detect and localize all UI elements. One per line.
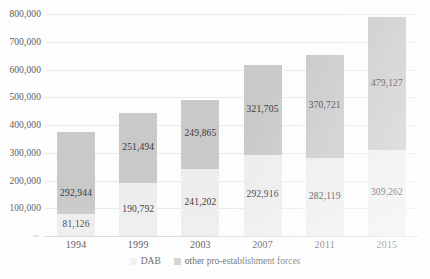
y-axis: 100,000200,000300,000400,000500,000600,0… [0,14,41,236]
gridline [45,14,418,15]
y-axis-tick-label: 200,000 [0,176,41,186]
gridline [45,42,418,43]
bar-segment[interactable]: 292,944 [57,132,95,213]
bar-segment[interactable]: 321,705 [244,65,282,154]
chart-legend: DABother pro-establishment forces [0,256,430,266]
gridline [45,236,418,237]
bar-segment[interactable]: 241,202 [181,169,219,236]
gridline [45,97,418,98]
legend-item[interactable]: DAB [130,256,161,266]
y-axis-zero-tick [33,236,39,237]
bar-segment[interactable]: 309,262 [368,150,406,236]
bar-segment[interactable]: 249,865 [181,100,219,169]
data-label: 321,705 [230,104,296,114]
stacked-bar-chart: 100,000200,000300,000400,000500,000600,0… [0,0,430,279]
bar-segment[interactable]: 190,792 [119,183,157,236]
gridline [45,208,418,209]
data-label: 292,916 [230,189,296,199]
data-label: 81,126 [43,219,109,229]
gridline [45,153,418,154]
legend-swatch-icon [174,258,181,265]
bar-segment[interactable]: 479,127 [368,17,406,150]
legend-label: other pro-establishment forces [185,256,301,266]
bar-segment[interactable]: 282,119 [306,158,344,236]
x-axis-tick-label: 2015 [357,239,417,250]
bar-segment[interactable]: 81,126 [57,214,95,237]
x-axis-tick-label: 2011 [295,239,355,250]
y-axis-tick-label: 400,000 [0,120,41,130]
data-label: 190,792 [105,204,171,214]
x-axis-tick-label: 2007 [233,239,293,250]
data-label: 249,865 [167,128,233,138]
data-label: 479,127 [354,78,420,88]
data-label: 309,262 [354,187,420,197]
data-label: 370,721 [292,100,358,110]
x-axis: 199419992003200720112015 [45,239,418,255]
y-axis-tick-label: 300,000 [0,148,41,158]
y-axis-tick-label: 800,000 [0,9,41,19]
data-label: 241,202 [167,197,233,207]
data-label: 251,494 [105,142,171,152]
legend-item[interactable]: other pro-establishment forces [174,256,301,266]
bar-segment[interactable]: 251,494 [119,113,157,183]
gridline [45,125,418,126]
gridline [45,181,418,182]
gridline [45,70,418,71]
bar-segment[interactable]: 370,721 [306,55,344,158]
y-axis-tick-label: 100,000 [0,203,41,213]
legend-label: DAB [141,256,161,266]
y-axis-tick-label: 600,000 [0,65,41,75]
bar-segment[interactable]: 292,916 [244,155,282,236]
x-axis-tick-label: 1999 [108,239,168,250]
x-axis-tick-label: 1994 [46,239,106,250]
data-label: 292,944 [43,188,109,198]
legend-swatch-icon [130,258,137,265]
y-axis-tick-label: 700,000 [0,37,41,47]
y-axis-tick-label: 500,000 [0,92,41,102]
x-axis-tick-label: 2003 [170,239,230,250]
data-label: 282,119 [292,191,358,201]
plot-area: 81,126292,944190,792251,494241,202249,86… [45,14,418,236]
